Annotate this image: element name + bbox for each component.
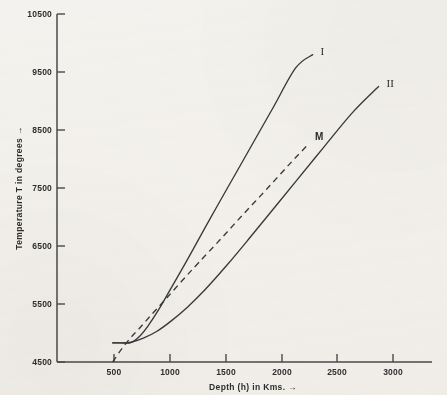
- curve-label-m: M: [315, 131, 323, 142]
- curve-m: [113, 146, 307, 362]
- curve-ii: [113, 87, 379, 343]
- y-axis-title: Temperature T in degrees →: [14, 126, 24, 249]
- y-tick-label-7500: 7500: [32, 183, 52, 193]
- temperature-depth-figure: 10500 9500 8500 7500 6500 5500 4500 500 …: [0, 0, 447, 395]
- y-tick-label-4500: 4500: [32, 357, 52, 367]
- y-tick-label-10500: 10500: [27, 9, 52, 19]
- curve-label-i: I: [321, 45, 325, 57]
- x-tick-label-2000: 2000: [272, 367, 292, 377]
- curve-label-ii: II: [387, 77, 395, 89]
- x-axis-ticks: [114, 354, 393, 362]
- x-axis-title: Depth (h) in Kms. →: [209, 382, 297, 392]
- y-tick-label-6500: 6500: [32, 241, 52, 251]
- x-tick-label-500: 500: [107, 367, 122, 377]
- y-tick-label-5500: 5500: [32, 299, 52, 309]
- y-axis-ticks: [57, 14, 65, 362]
- x-tick-label-3000: 3000: [383, 367, 403, 377]
- x-tick-label-2500: 2500: [327, 367, 347, 377]
- chart-canvas: 10500 9500 8500 7500 6500 5500 4500 500 …: [0, 0, 447, 395]
- x-tick-label-1500: 1500: [216, 367, 236, 377]
- x-tick-label-1000: 1000: [160, 367, 180, 377]
- curve-i: [113, 55, 313, 343]
- y-tick-label-9500: 9500: [32, 67, 52, 77]
- y-tick-label-8500: 8500: [32, 125, 52, 135]
